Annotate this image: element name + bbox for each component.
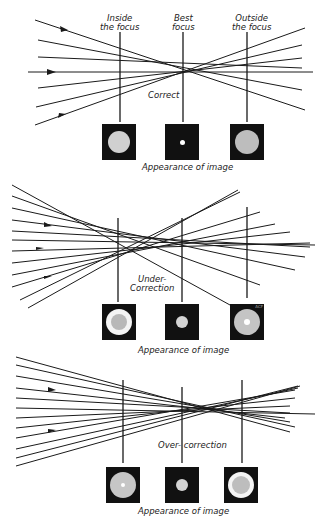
image-outside-under: ACF xyxy=(230,304,264,340)
label-line: focus xyxy=(172,23,195,32)
label-best-focus: Best focus xyxy=(172,14,195,32)
title-over-correction: Over- correction xyxy=(158,440,227,450)
image-disc xyxy=(235,130,259,154)
panel-correct-rays xyxy=(28,20,313,125)
image-outside-over xyxy=(224,467,258,503)
title-correct: Correct xyxy=(148,90,179,100)
image-center xyxy=(121,483,125,487)
image-inside-correct xyxy=(102,124,136,160)
label-outside-focus: Outside the focus xyxy=(232,14,271,32)
label-line: the focus xyxy=(232,23,271,32)
image-best-under xyxy=(165,304,199,340)
image-disc xyxy=(111,314,127,330)
image-disc xyxy=(176,316,188,328)
caption-correct: Appearance of image xyxy=(142,162,233,172)
caption-over: Appearance of image xyxy=(138,506,229,516)
image-disc xyxy=(176,479,188,491)
label-line: the focus xyxy=(100,23,139,32)
image-outside-correct xyxy=(230,124,264,160)
title-under-correction: Under- Correction xyxy=(130,275,174,293)
image-center xyxy=(244,319,250,325)
label-line: Correction xyxy=(130,284,174,293)
label-inside-focus: Inside the focus xyxy=(100,14,139,32)
arrow-icon xyxy=(36,26,68,433)
artist-signature: ACF xyxy=(255,304,263,309)
caption-under: Appearance of image xyxy=(138,345,229,355)
image-disc xyxy=(232,476,250,494)
image-disc xyxy=(108,131,130,153)
image-point xyxy=(180,140,185,145)
image-inside-under xyxy=(102,304,136,340)
image-best-over xyxy=(165,467,199,503)
image-inside-over xyxy=(106,467,140,503)
image-best-correct xyxy=(165,124,199,160)
